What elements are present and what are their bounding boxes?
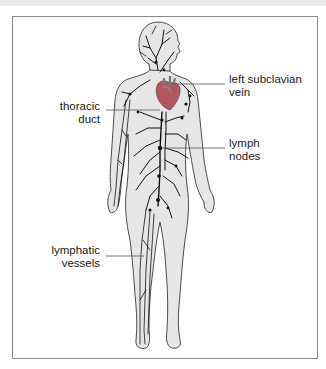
label-thoracic-duct: thoracic duct bbox=[60, 100, 100, 125]
head bbox=[139, 22, 180, 74]
label-line: thoracic bbox=[60, 100, 100, 113]
label-lymphatic-vessels: lymphatic vessels bbox=[51, 244, 100, 269]
label-line: left subclavian bbox=[229, 73, 302, 86]
label-line: nodes bbox=[229, 150, 260, 163]
label-line: vessels bbox=[51, 257, 100, 270]
label-line: duct bbox=[60, 113, 100, 126]
label-lymph-nodes: lymph nodes bbox=[229, 137, 260, 162]
torso-limbs bbox=[108, 70, 214, 349]
lymphatic-system-figure bbox=[0, 0, 326, 369]
label-line: lymph bbox=[229, 137, 260, 150]
label-left-subclavian-vein: left subclavian vein bbox=[229, 73, 302, 98]
label-line: lymphatic bbox=[51, 244, 100, 257]
label-line: vein bbox=[229, 86, 302, 99]
